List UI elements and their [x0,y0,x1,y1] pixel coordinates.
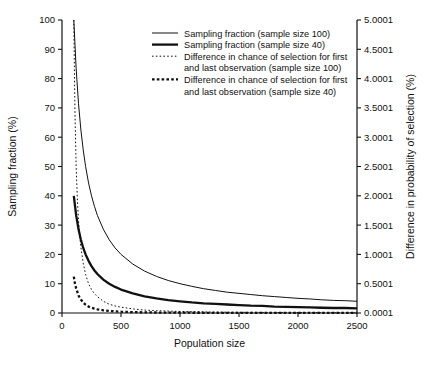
y2-tick-label: 2.5001 [364,161,393,172]
y2-tick-label: 3.0001 [364,132,393,143]
y-tick-label: 90 [44,44,55,55]
y-tick-label: 20 [44,249,55,260]
y-tick-label: 100 [39,14,55,25]
y-tick-label: 70 [44,102,55,113]
x-axis-title: Population size [174,337,245,349]
x-tick-label: 1500 [228,320,249,331]
y-tick-label: 0 [50,307,55,318]
sampling-fraction-chart: 01020304050607080901000.00010.50011.0001… [0,0,428,368]
y-tick-label: 10 [44,278,55,289]
y-tick-label: 40 [44,190,55,201]
y2-axis-title: Difference in probability of selection (… [404,74,416,259]
y2-tick-label: 0.5001 [364,278,393,289]
y2-tick-label: 3.5001 [364,102,393,113]
y2-tick-label: 1.0001 [364,249,393,260]
x-tick-label: 0 [59,320,64,331]
y2-tick-label: 4.5001 [364,44,393,55]
y2-tick-label: 1.5001 [364,220,393,231]
legend-label-3-0: Difference in chance of selection for fi… [184,75,348,85]
series-line-0 [74,20,357,301]
series-line-1 [74,196,357,309]
legend-label-0-0: Sampling fraction (sample size 100) [184,29,330,39]
x-tick-label: 1000 [169,320,190,331]
x-tick-label: 500 [113,320,129,331]
legend-label-3-1: and last observation (sample size 40) [184,87,336,97]
y-tick-label: 30 [44,220,55,231]
legend-label-2-1: and last observation (sample size 100) [184,63,341,73]
y2-tick-label: 5.0001 [364,14,393,25]
y-tick-label: 80 [44,73,55,84]
legend-label-2-0: Difference in chance of selection for fi… [184,52,348,62]
y2-tick-label: 0.0001 [364,307,393,318]
y-axis-title: Sampling fraction (%) [6,116,18,216]
y2-tick-label: 4.0001 [364,73,393,84]
x-tick-label: 2000 [287,320,308,331]
x-tick-label: 2500 [346,320,367,331]
y-tick-label: 60 [44,132,55,143]
y2-tick-label: 2.0001 [364,190,393,201]
chart-figure: 01020304050607080901000.00010.50011.0001… [0,0,428,368]
legend-label-1-0: Sampling fraction (sample size 40) [184,40,325,50]
y-tick-label: 50 [44,161,55,172]
